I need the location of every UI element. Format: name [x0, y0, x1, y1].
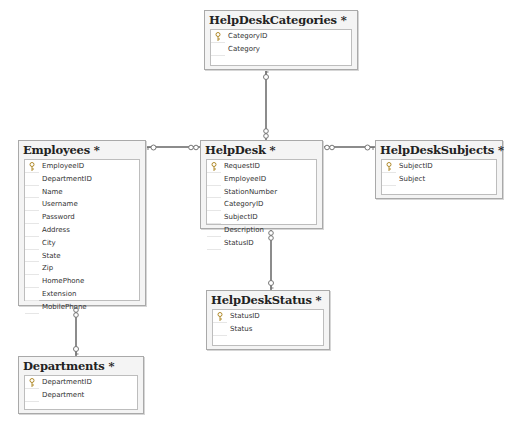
column-name: CategoryID [224, 198, 263, 211]
column-row[interactable]: StationNumber [207, 186, 316, 199]
key-icon [386, 162, 392, 171]
key-icon [261, 71, 271, 81]
column-name: SubjectID [224, 211, 258, 224]
column-list: CategoryID Category [210, 29, 352, 66]
column-name: City [42, 237, 56, 250]
column-name: StationNumber [224, 186, 277, 199]
column-name: Extension [42, 288, 76, 301]
table-departments[interactable]: Departments * DepartmentID Department [18, 356, 144, 414]
column-name: EmployeeID [42, 160, 84, 173]
table-employees[interactable]: Employees * EmployeeID DepartmentID Name… [18, 140, 146, 306]
column-name: HomePhone [42, 275, 84, 288]
column-row[interactable]: State [25, 250, 139, 263]
infinity-icon [324, 143, 336, 152]
table-title: HelpDeskStatus * [211, 293, 321, 307]
column-name: StatusID [230, 310, 260, 323]
column-row[interactable]: DepartmentID [25, 173, 139, 186]
column-name: Address [42, 224, 70, 237]
key-icon [266, 279, 276, 289]
column-row[interactable]: Password [25, 211, 139, 224]
column-list: SubjectID Subject [381, 159, 497, 195]
column-row[interactable]: EmployeeID [25, 160, 139, 173]
infinity-icon [188, 143, 200, 152]
column-name: Password [42, 211, 75, 224]
table-title: HelpDesk * [205, 143, 275, 157]
key-icon [211, 162, 217, 171]
column-row[interactable]: Username [25, 198, 139, 211]
table-helpdeskstatus[interactable]: HelpDeskStatus * StatusID Status [206, 290, 330, 350]
column-name: SubjectID [399, 160, 433, 173]
column-row[interactable]: City [25, 237, 139, 250]
column-name: Department [42, 389, 84, 402]
table-title: HelpDeskCategories * [209, 13, 347, 27]
column-name: Subject [399, 173, 425, 186]
column-row[interactable]: CategoryID [211, 30, 351, 43]
key-icon [29, 162, 35, 171]
column-row[interactable]: Name [25, 186, 139, 199]
column-row[interactable]: DepartmentID [25, 376, 137, 389]
column-row[interactable]: Status [213, 323, 323, 336]
column-list: StatusID Status [212, 309, 324, 346]
column-name: DepartmentID [42, 376, 92, 389]
infinity-icon [261, 128, 271, 140]
column-name: MobilePhone [42, 301, 87, 314]
column-name: StatusID [224, 237, 254, 250]
column-row[interactable]: Category [211, 43, 351, 56]
column-name: Status [230, 323, 252, 336]
column-row[interactable]: SubjectID [382, 160, 496, 173]
column-list: RequestID EmployeeID StationNumber Categ… [206, 159, 317, 225]
column-name: CategoryID [228, 30, 267, 43]
key-icon [71, 345, 81, 355]
key-icon [147, 143, 157, 152]
column-name: State [42, 250, 61, 263]
column-row[interactable]: CategoryID [207, 198, 316, 211]
key-icon [215, 32, 221, 41]
table-helpdesksubjects[interactable]: HelpDeskSubjects * SubjectID Subject [375, 140, 503, 199]
column-name: DepartmentID [42, 173, 92, 186]
column-row[interactable]: StatusID [213, 310, 323, 323]
table-title: Departments * [23, 359, 114, 373]
column-name: Zip [42, 262, 53, 275]
column-row[interactable]: MobilePhone [25, 301, 139, 314]
table-helpdeskcategories[interactable]: HelpDeskCategories * CategoryID Category [204, 10, 358, 70]
table-title: Employees * [23, 143, 100, 157]
key-icon [217, 312, 223, 321]
column-name: Name [42, 186, 63, 199]
column-row[interactable]: Department [25, 389, 137, 402]
diagram-canvas: HelpDeskCategories * CategoryID Category… [0, 0, 520, 434]
column-row[interactable]: Description [207, 224, 316, 237]
column-row[interactable]: HomePhone [25, 275, 139, 288]
key-icon [364, 143, 374, 152]
column-row[interactable]: SubjectID [207, 211, 316, 224]
column-row[interactable]: Subject [382, 173, 496, 186]
column-row[interactable]: Zip [25, 262, 139, 275]
column-row[interactable]: EmployeeID [207, 173, 316, 186]
column-name: RequestID [224, 160, 260, 173]
table-title: HelpDeskSubjects * [380, 143, 504, 157]
column-row[interactable]: StatusID [207, 237, 316, 250]
column-list: EmployeeID DepartmentID Name Username Pa… [24, 159, 140, 301]
table-helpdesk[interactable]: HelpDesk * RequestID EmployeeID StationN… [200, 140, 323, 229]
column-list: DepartmentID Department [24, 375, 138, 410]
column-name: Description [224, 224, 264, 237]
column-name: Category [228, 43, 260, 56]
column-row[interactable]: RequestID [207, 160, 316, 173]
column-name: EmployeeID [224, 173, 266, 186]
column-name: Username [42, 198, 78, 211]
column-row[interactable]: Extension [25, 288, 139, 301]
key-icon [29, 378, 35, 387]
column-row[interactable]: Address [25, 224, 139, 237]
